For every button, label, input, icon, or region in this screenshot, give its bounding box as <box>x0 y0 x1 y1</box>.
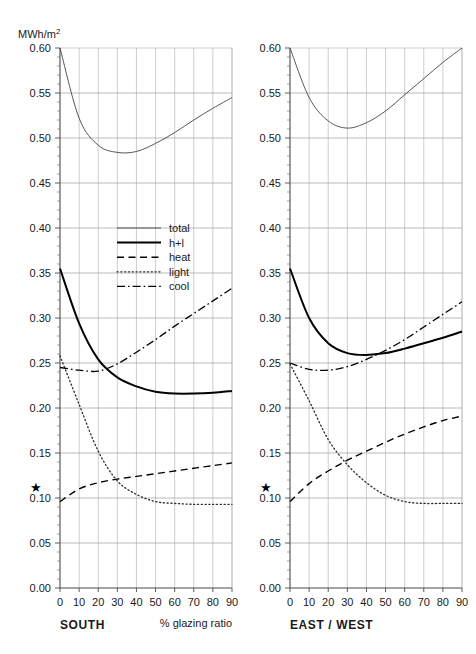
x-tick-label: 70 <box>418 596 430 608</box>
y-tick-label: 0.15 <box>260 447 281 459</box>
x-tick-label: 0 <box>287 596 293 608</box>
series-line-light <box>290 364 462 504</box>
x-tick-label: 70 <box>188 596 200 608</box>
y-tick-label: 0.55 <box>260 87 281 99</box>
series-line-heat <box>290 416 462 502</box>
x-tick-label: 50 <box>149 596 161 608</box>
star-marker: ★ <box>30 480 42 495</box>
panel-east-west-svg: 0.000.050.100.150.200.250.300.350.400.45… <box>236 0 476 654</box>
tickmarks-south <box>55 48 232 592</box>
y-tick-label: 0.60 <box>260 42 281 54</box>
x-tick-label: 30 <box>111 596 123 608</box>
x-tick-label: 10 <box>303 596 315 608</box>
gridlines-east-west <box>290 48 462 588</box>
series-line-h-plus-l <box>60 269 232 394</box>
x-tick-label: 20 <box>322 596 334 608</box>
x-tick-label: 80 <box>437 596 449 608</box>
series-line-h-plus-l <box>290 269 462 355</box>
y-tick-label: 0.20 <box>30 402 51 414</box>
y-tick-label: 0.40 <box>30 222 51 234</box>
legend-label-light: light <box>169 266 189 278</box>
y-tick-label: 0.20 <box>260 402 281 414</box>
y-tick-label: 0.00 <box>30 582 51 594</box>
legend-label-heat: heat <box>169 251 190 263</box>
curves-east-west <box>290 48 462 504</box>
x-tick-label: 90 <box>456 596 468 608</box>
legend-label-hl: h+l <box>169 237 184 249</box>
y-tick-labels-east-west: 0.000.050.100.150.200.250.300.350.400.45… <box>260 42 281 594</box>
y-tick-label: 0.60 <box>30 42 51 54</box>
curves-south <box>60 48 232 504</box>
y-tick-labels-south: 0.000.050.100.150.200.250.300.350.400.45… <box>30 42 51 594</box>
annotations-east-west: ★ <box>260 480 272 495</box>
y-tick-label: 0.30 <box>260 312 281 324</box>
x-axis-title: % glazing ratio <box>160 617 232 629</box>
x-tick-labels-south: 0102030405060708090 <box>57 596 238 608</box>
x-tick-labels-east-west: 0102030405060708090 <box>287 596 468 608</box>
panel-south: MWh/m2 0.000.050.100.150.200.250.300.350… <box>0 0 240 654</box>
series-line-total <box>290 48 462 128</box>
y-tick-label: 0.25 <box>260 357 281 369</box>
panel-label-east-west: EAST / WEST <box>290 618 373 632</box>
x-tick-label: 10 <box>73 596 85 608</box>
series-line-light <box>60 356 232 505</box>
series-line-cool <box>60 288 232 371</box>
x-tick-label: 40 <box>130 596 142 608</box>
x-tick-label: 40 <box>360 596 372 608</box>
x-tick-label: 30 <box>341 596 353 608</box>
y-tick-label: 0.00 <box>260 582 281 594</box>
x-tick-label: 60 <box>169 596 181 608</box>
series-line-total <box>60 48 232 153</box>
legend: totalh+lheatlightcool <box>117 222 190 292</box>
annotations-south: ★ <box>30 480 42 495</box>
y-tick-label: 0.30 <box>30 312 51 324</box>
y-tick-label: 0.50 <box>30 132 51 144</box>
series-line-heat <box>60 463 232 502</box>
y-tick-label: 0.15 <box>30 447 51 459</box>
y-tick-label: 0.45 <box>260 177 281 189</box>
y-tick-label: 0.40 <box>260 222 281 234</box>
x-tick-label: 0 <box>57 596 63 608</box>
y-tick-label: 0.55 <box>30 87 51 99</box>
y-tick-label: 0.35 <box>30 267 51 279</box>
y-tick-label: 0.50 <box>260 132 281 144</box>
series-line-cool <box>290 302 462 371</box>
panel-east-west: 0.000.050.100.150.200.250.300.350.400.45… <box>236 0 476 654</box>
x-tick-label: 50 <box>379 596 391 608</box>
x-tick-label: 80 <box>207 596 219 608</box>
x-tick-label: 60 <box>399 596 411 608</box>
legend-label-cool: cool <box>169 280 189 292</box>
figure-root: MWh/m2 0.000.050.100.150.200.250.300.350… <box>0 0 476 654</box>
y-tick-label: 0.35 <box>260 267 281 279</box>
y-tick-label: 0.05 <box>260 537 281 549</box>
panel-label-south: SOUTH <box>60 618 105 632</box>
y-tick-label: 0.05 <box>30 537 51 549</box>
y-axis-unit-label: MWh/m2 <box>18 27 61 40</box>
y-tick-label: 0.45 <box>30 177 51 189</box>
panel-south-svg: MWh/m2 0.000.050.100.150.200.250.300.350… <box>0 0 240 654</box>
x-tick-label: 20 <box>92 596 104 608</box>
star-marker: ★ <box>260 480 272 495</box>
gridlines-south <box>60 48 232 588</box>
y-tick-label: 0.25 <box>30 357 51 369</box>
legend-label-total: total <box>169 222 190 234</box>
